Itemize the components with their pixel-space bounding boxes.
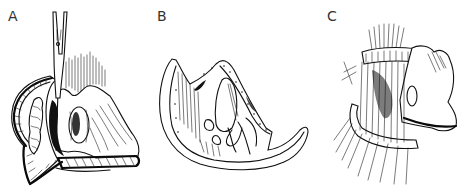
panel-a-scissors [53,12,67,98]
panel-b-illustration [160,59,308,170]
panel-a-fine-lines [66,52,105,92]
panel-c-upper-sutures [369,24,404,50]
panel-c-illustration [334,24,456,184]
panel-a-tissue-mass [49,86,139,158]
figure: A B C [0,0,467,191]
panel-a-illustration [12,12,139,184]
